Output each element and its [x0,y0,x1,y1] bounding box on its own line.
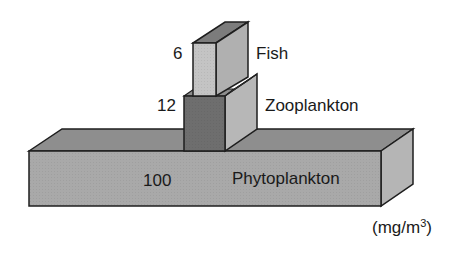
zooplankton-value-label: 12 [157,97,176,114]
phytoplankton-name-label: Phytoplankton [232,170,340,187]
zooplankton-name-label: Zooplankton [265,97,359,114]
unit-label: (mg/m3) [372,218,432,236]
fish-value-label: 6 [173,45,182,62]
fish-name-label: Fish [256,45,288,62]
phytoplankton-value-label: 100 [143,172,171,189]
